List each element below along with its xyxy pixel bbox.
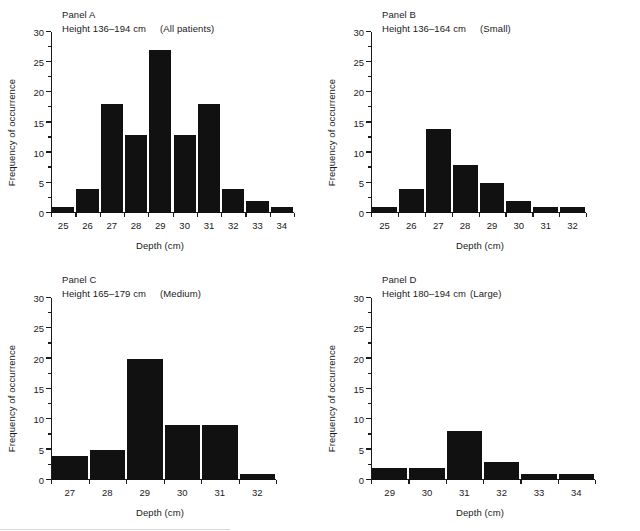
- y-tick-label: 25: [353, 323, 364, 334]
- x-tick-label: 27: [64, 487, 75, 498]
- histogram-bar: [480, 183, 505, 213]
- y-tick-major: [46, 297, 51, 298]
- histogram-bar: [202, 425, 238, 480]
- y-tick-major: [46, 121, 51, 122]
- panel-b-x-axis-label: Depth (cm): [320, 240, 640, 251]
- x-tick: [148, 213, 149, 217]
- x-tick-label: 28: [460, 220, 471, 231]
- y-axis-line: [51, 298, 52, 480]
- y-tick-minor: [48, 166, 51, 167]
- x-tick-label: 28: [131, 220, 142, 231]
- x-tick-label: 32: [252, 487, 263, 498]
- y-tick-major: [366, 31, 371, 32]
- y-tick-label: 15: [353, 117, 364, 128]
- x-tick: [51, 213, 52, 217]
- y-tick-minor: [48, 197, 51, 198]
- x-tick: [173, 213, 174, 217]
- y-tick-major: [46, 418, 51, 419]
- histogram-bar: [240, 474, 276, 480]
- scan-artifact-line: [0, 529, 230, 530]
- panel-d: Panel D Height 180–194 cm(Large) Frequen…: [320, 265, 640, 531]
- y-tick-label: 5: [39, 444, 44, 455]
- y-tick-label: 15: [353, 384, 364, 395]
- y-tick-major: [46, 357, 51, 358]
- y-tick-label: 30: [33, 27, 44, 38]
- x-tick-label: 31: [459, 487, 470, 498]
- x-tick: [483, 480, 484, 484]
- x-tick-label: 30: [177, 487, 188, 498]
- y-tick-label: 30: [33, 293, 44, 304]
- x-tick: [164, 480, 165, 484]
- x-tick-label: 31: [540, 220, 551, 231]
- x-tick: [100, 213, 101, 217]
- panel-d-plot-area: 051015202530293031323334: [371, 298, 595, 480]
- panel-c-title: Panel C Height 165–179 cm(Medium): [62, 273, 201, 301]
- x-tick: [586, 213, 587, 217]
- y-tick-minor: [368, 312, 371, 313]
- y-tick-minor: [48, 46, 51, 47]
- y-tick-minor: [368, 197, 371, 198]
- x-tick-label: 34: [277, 220, 288, 231]
- y-axis-line: [371, 32, 372, 213]
- panel-d-label: Panel D: [382, 273, 501, 287]
- histogram-bar: [127, 359, 163, 480]
- y-tick-minor: [368, 403, 371, 404]
- y-tick-major: [366, 357, 371, 358]
- x-tick-label: 32: [228, 220, 239, 231]
- x-tick-label: 29: [487, 220, 498, 231]
- x-tick-label: 25: [379, 220, 390, 231]
- x-tick-label: 32: [496, 487, 507, 498]
- panel-a-y-axis-label: Frequency of occurrence: [4, 0, 20, 265]
- x-tick: [532, 213, 533, 217]
- histogram-bar: [125, 135, 147, 213]
- histogram-bar: [447, 431, 482, 480]
- panel-a-x-axis-label: Depth (cm): [0, 240, 320, 251]
- x-tick-label: 31: [214, 487, 225, 498]
- y-tick-label: 30: [353, 293, 364, 304]
- y-tick-label: 5: [359, 177, 364, 188]
- y-tick-major: [46, 182, 51, 183]
- y-tick-label: 15: [33, 117, 44, 128]
- y-tick-label: 0: [359, 475, 364, 486]
- histogram-figure: Panel A Height 136–194 cm(All patients) …: [0, 0, 640, 531]
- y-tick-label: 20: [353, 353, 364, 364]
- y-tick-minor: [48, 373, 51, 374]
- panel-c: Panel C Height 165–179 cm(Medium) Freque…: [0, 265, 320, 531]
- y-tick-major: [366, 297, 371, 298]
- panel-b-label: Panel B: [382, 8, 511, 22]
- x-tick: [398, 213, 399, 217]
- x-tick: [75, 213, 76, 217]
- histogram-bar: [484, 462, 519, 480]
- x-tick: [559, 213, 560, 217]
- histogram-bar: [506, 201, 531, 213]
- x-tick-label: 32: [567, 220, 578, 231]
- x-tick-label: 26: [82, 220, 93, 231]
- panel-a: Panel A Height 136–194 cm(All patients) …: [0, 0, 320, 265]
- x-tick: [558, 480, 559, 484]
- x-tick-label: 29: [155, 220, 166, 231]
- panel-a-plot-area: 05101520253025262728293031323334: [51, 32, 294, 213]
- y-tick-label: 0: [359, 208, 364, 219]
- panel-d-x-axis-label: Depth (cm): [320, 507, 640, 518]
- y-tick-major: [366, 182, 371, 183]
- x-tick: [201, 480, 202, 484]
- y-tick-major: [46, 151, 51, 152]
- y-tick-minor: [48, 403, 51, 404]
- y-tick-minor: [368, 46, 371, 47]
- y-tick-label: 20: [33, 87, 44, 98]
- y-tick-major: [366, 418, 371, 419]
- y-tick-minor: [368, 342, 371, 343]
- y-tick-major: [366, 327, 371, 328]
- x-tick: [479, 213, 480, 217]
- x-tick: [371, 213, 372, 217]
- x-tick-label: 33: [252, 220, 263, 231]
- y-tick-minor: [48, 433, 51, 434]
- y-tick-minor: [368, 464, 371, 465]
- x-tick: [89, 480, 90, 484]
- x-tick: [197, 213, 198, 217]
- y-tick-minor: [368, 106, 371, 107]
- y-tick-major: [366, 388, 371, 389]
- histogram-bar: [426, 129, 451, 213]
- x-tick: [452, 213, 453, 217]
- y-tick-major: [366, 61, 371, 62]
